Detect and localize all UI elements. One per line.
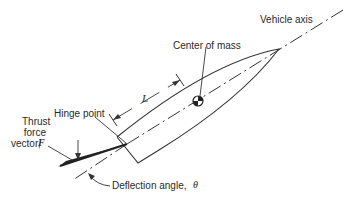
deflection-angle-arrowhead xyxy=(88,173,95,180)
deflection-angle-label: Deflection angle, xyxy=(112,180,187,191)
hinge-point-leader xyxy=(95,117,126,143)
center-of-mass-label: Center of mass xyxy=(173,40,241,51)
vehicle-axis-label: Vehicle axis xyxy=(260,14,313,25)
thrust-label-leader xyxy=(48,146,72,160)
thrust-label-line1: Thrust xyxy=(22,116,46,127)
rocket-diagram xyxy=(0,0,350,208)
diagram-canvas: Vehicle axis Center of mass L Hinge poin… xyxy=(0,0,350,208)
length-arrow-lower xyxy=(113,114,121,120)
thrust-label-line3: vector, xyxy=(11,138,40,149)
body-upper-edge xyxy=(117,88,200,137)
length-arrow-upper xyxy=(172,80,180,86)
length-label: L xyxy=(142,93,148,104)
center-of-mass-icon xyxy=(193,96,203,106)
deflection-symbol: θ xyxy=(193,179,198,190)
axis-extension-line xyxy=(73,144,127,180)
center-of-mass-leader xyxy=(200,47,206,96)
vehicle-axis-line xyxy=(127,10,343,144)
hinge-point-label: Hinge point xyxy=(54,108,105,119)
thrust-force-shaft xyxy=(60,144,127,166)
thrust-symbol: F xyxy=(38,137,45,148)
